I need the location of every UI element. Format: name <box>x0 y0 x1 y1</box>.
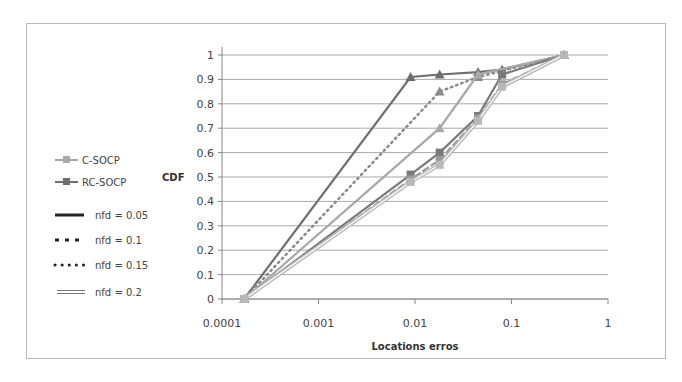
y-axis-title: CDF <box>162 172 184 183</box>
x-tick-label: 0.01 <box>403 317 428 330</box>
y-tick-label: 0.8 <box>197 98 215 111</box>
legend: C-SOCPRC-SOCPnfd = 0.05nfd = 0.1nfd = 0.… <box>55 155 148 298</box>
y-tick-label: 0.4 <box>197 195 215 208</box>
legend-label: nfd = 0.05 <box>95 210 148 221</box>
legend-label: nfd = 0.1 <box>95 235 142 246</box>
x-tick-label: 0.001 <box>303 317 335 330</box>
legend-label: nfd = 0.15 <box>95 260 148 271</box>
y-tick-label: 0.6 <box>197 147 215 160</box>
legend-label: C-SOCP <box>82 155 120 166</box>
y-tick-label: 0.1 <box>197 269 215 282</box>
cdf-chart: 00.10.20.30.40.50.60.70.80.910.00010.001… <box>0 0 682 382</box>
legend-label: nfd = 0.2 <box>95 287 142 298</box>
square-marker <box>560 51 568 59</box>
y-tick-label: 1 <box>207 49 214 62</box>
x-tick-label: 1 <box>605 317 612 330</box>
square-marker <box>240 295 248 303</box>
legend-square-icon <box>63 156 70 163</box>
square-marker <box>436 161 444 169</box>
x-axis-title: Locations erros <box>371 341 458 352</box>
y-tick-label: 0.3 <box>197 220 215 233</box>
x-tick-label: 0.0001 <box>203 317 242 330</box>
square-marker <box>498 71 506 79</box>
legend-square-icon <box>63 178 70 185</box>
y-tick-label: 0.5 <box>197 171 215 184</box>
y-tick-label: 0.2 <box>197 244 215 257</box>
y-tick-label: 0.7 <box>197 122 215 135</box>
square-marker <box>407 178 415 186</box>
square-marker <box>498 83 506 91</box>
square-marker <box>474 117 482 125</box>
y-tick-label: 0.9 <box>197 73 215 86</box>
x-tick-label: 0.1 <box>503 317 521 330</box>
legend-label: RC-SOCP <box>82 177 126 188</box>
y-tick-label: 0 <box>207 293 214 306</box>
